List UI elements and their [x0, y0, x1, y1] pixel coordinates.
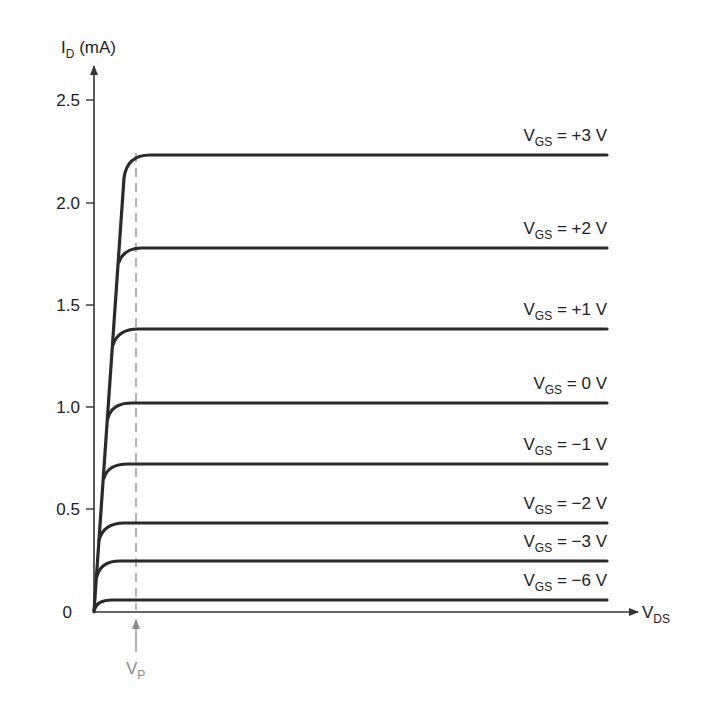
curve-vgs-plus-2	[119, 248, 607, 262]
curve-label-vgs-plus-3: VGS = +3 V	[523, 126, 607, 149]
curve-label-vgs-minus-6: VGS = −6 V	[523, 571, 607, 594]
curve-label-vgs-plus-1: VGS = +1 V	[523, 300, 607, 323]
y-axis-label: ID (mA)	[61, 38, 116, 61]
y-tick-label: 2.5	[56, 91, 80, 110]
curve-label-vgs-minus-2: VGS = −2 V	[523, 494, 607, 517]
curve-label-vgs-minus-3: VGS = −3 V	[523, 532, 607, 555]
y-tick-label: 2.0	[56, 194, 80, 213]
y-tick-label: 1.0	[56, 398, 80, 417]
y-tick-label: 1.5	[56, 296, 80, 315]
curve-vgs-minus-6	[94, 600, 607, 610]
curve-vgs-plus-1	[113, 329, 607, 345]
y-tick-label: 0	[63, 603, 72, 622]
y-tick-labels: 2.5 2.0 1.5 1.0 0.5 0	[56, 91, 80, 622]
x-axis-label: VDS	[642, 603, 670, 626]
curve-label-vgs-minus-1: VGS = −1 V	[523, 435, 607, 458]
y-ticks	[86, 100, 94, 509]
jfet-drain-characteristics-chart: 2.5 2.0 1.5 1.0 0.5 0 ID (mA) VDS VP VGS…	[0, 0, 711, 706]
curve-label-vgs-plus-2: VGS = +2 V	[523, 219, 607, 242]
pinch-off-label: VP	[126, 659, 145, 682]
curve-label-vgs-0: VGS = 0 V	[533, 374, 607, 397]
y-tick-label: 0.5	[56, 500, 80, 519]
curve-vgs-0	[108, 403, 607, 418]
curve-vgs-minus-1	[104, 464, 607, 478]
